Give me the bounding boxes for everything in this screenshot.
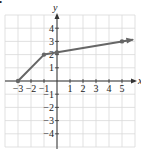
data-point [16, 79, 20, 83]
x-tick-label: −2 [26, 83, 37, 94]
y-tick-label: 1 [49, 62, 54, 73]
data-point [55, 50, 59, 54]
data-point [42, 52, 46, 56]
series-arrow-icon [126, 38, 134, 44]
x-axis-label: x [137, 75, 141, 86]
series [16, 38, 134, 83]
corner-marker: • [0, 0, 2, 7]
chart: • −3−2−112345−4−3−2−11234 y x [0, 0, 141, 155]
y-axis-arrow-icon [55, 13, 60, 19]
y-tick-label: −1 [43, 89, 54, 100]
data-point [120, 39, 124, 43]
y-tick-label: −4 [43, 128, 54, 139]
series-line [18, 40, 132, 81]
x-tick-label: 4 [107, 83, 112, 94]
y-tick-label: −3 [43, 115, 54, 126]
y-tick-label: 3 [49, 36, 54, 47]
y-tick-label: −2 [43, 102, 54, 113]
y-axis-label: y [52, 2, 58, 13]
x-tick-label: 2 [81, 83, 86, 94]
x-tick-label: 5 [120, 83, 125, 94]
y-tick-label: 4 [49, 23, 54, 34]
x-tick-label: −3 [13, 83, 24, 94]
x-tick-label: 1 [68, 83, 73, 94]
x-tick-label: 3 [94, 83, 99, 94]
axes [5, 13, 137, 149]
x-axis-arrow-icon [131, 79, 137, 84]
